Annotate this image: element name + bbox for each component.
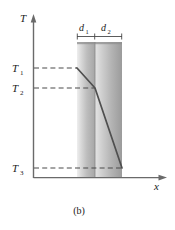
x-axis-label: x (153, 180, 159, 192)
thickness-label-d1: d 1 (79, 22, 89, 35)
right-arrow-icon (159, 175, 168, 181)
thickness-label-d2-base: d (101, 22, 107, 33)
thickness-label-d1-base: d (79, 22, 85, 33)
slab-layer-1 (77, 42, 95, 178)
up-arrow-icon (31, 14, 37, 23)
tick-label-T1-subscript: 1 (20, 69, 24, 77)
thickness-label-d2-subscript: 2 (108, 28, 111, 35)
y-axis-label: T (20, 12, 27, 24)
tick-label-T1: T 1 (12, 62, 24, 77)
temperature-profile-diagram: T x T 1 T 2 T 3 d 1 (0, 0, 175, 230)
thickness-label-d2: d 2 (101, 22, 111, 35)
tick-label-T3-subscript: 3 (20, 169, 24, 177)
thickness-label-d1-subscript: 1 (86, 28, 89, 35)
tick-label-T3-base: T (12, 162, 19, 174)
slab-top-edge (77, 42, 122, 44)
tick-label-T3: T 3 (12, 162, 24, 177)
figure-caption: (b) (73, 205, 85, 217)
tick-label-T2: T 2 (12, 82, 24, 97)
tick-label-T1-base: T (12, 62, 19, 74)
tick-label-T2-subscript: 2 (20, 89, 24, 97)
figure-container: T x T 1 T 2 T 3 d 1 (0, 0, 175, 230)
tick-label-T2-base: T (12, 82, 19, 94)
